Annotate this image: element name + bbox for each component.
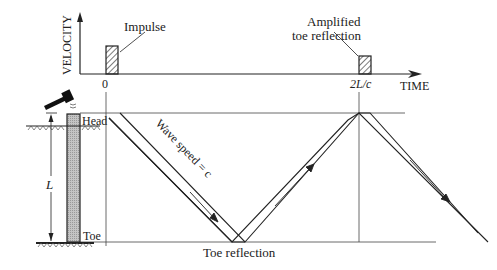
- impact-vibration-icon: [70, 104, 76, 108]
- impulse-label: Impulse: [124, 19, 166, 34]
- wave-speed-label: Wave speed = c: [153, 116, 215, 180]
- hammer-icon: [45, 89, 76, 108]
- length-arrow-up-icon: [49, 114, 54, 122]
- length-arrow-down-icon: [49, 233, 54, 241]
- down-wave-direction-line: [190, 192, 214, 218]
- amplified-label-line1: Amplified: [307, 14, 361, 29]
- time-2lc-label: 2L/c: [350, 77, 372, 91]
- time-axis-label: TIME: [400, 79, 429, 93]
- velocity-time-graph: VELOCITY TIME Impulse Amplified toe refl…: [60, 12, 429, 93]
- second-down-wave-direction-line: [410, 160, 445, 198]
- time-zero-label: 0: [102, 77, 108, 91]
- amplified-label-line2: toe reflection: [292, 28, 361, 43]
- amplified-toe-reflection-pulse: [359, 56, 371, 74]
- impulse-pulse: [106, 46, 118, 74]
- velocity-axis-label: VELOCITY: [60, 15, 74, 75]
- velocity-axis-arrow-icon: [77, 12, 83, 22]
- length-label: L: [45, 177, 53, 192]
- impulse-leader-line: [120, 32, 145, 52]
- up-wave-direction-line: [275, 166, 312, 206]
- toe-reflection-label: Toe reflection: [203, 245, 276, 260]
- pile-wave-diagram: VELOCITY TIME Impulse Amplified toe refl…: [0, 0, 497, 270]
- toe-label: Toe: [83, 229, 101, 243]
- head-label: Head: [82, 114, 107, 128]
- pile-shaft: [67, 114, 80, 242]
